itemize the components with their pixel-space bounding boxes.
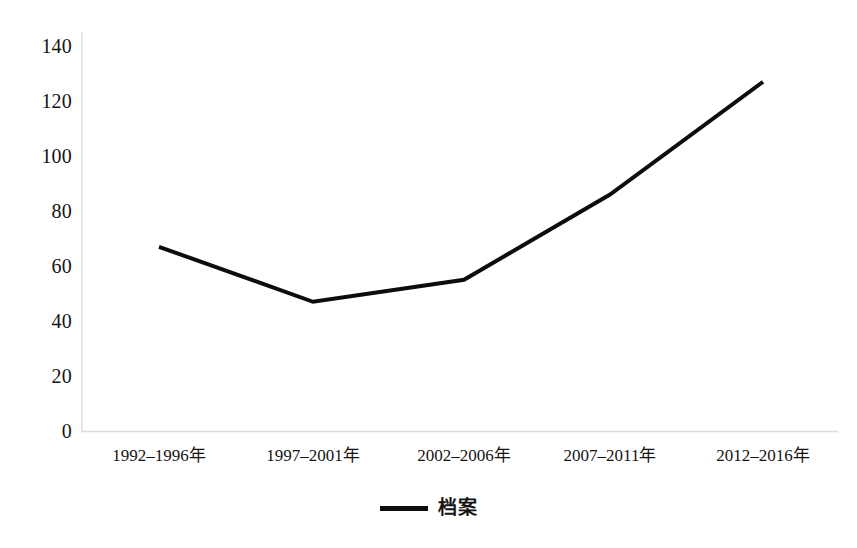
x-tick-label-1992-1996: 1992–1996年 — [82, 446, 236, 466]
x-tick-label-2012-2016: 2012–2016年 — [686, 446, 840, 466]
chart-legend: 档案 — [0, 491, 857, 525]
line-chart: 140 120 100 80 60 40 20 0 1992–1996年 199… — [0, 0, 857, 548]
x-tick-label-1997-2001: 1997–2001年 — [236, 446, 390, 466]
legend-label-dangan: 档案 — [438, 497, 478, 519]
y-tick-label-100: 100 — [16, 146, 72, 166]
x-tick-label-2002-2006: 2002–2006年 — [387, 446, 541, 466]
x-tick-label-2007-2011: 2007–2011年 — [533, 446, 687, 466]
legend-line-marker-icon — [380, 506, 428, 511]
data-series-line-dangan — [159, 82, 763, 302]
y-tick-label-140: 140 — [16, 36, 72, 56]
y-tick-label-20: 20 — [16, 366, 72, 386]
y-tick-label-0: 0 — [16, 421, 72, 441]
y-tick-label-120: 120 — [16, 91, 72, 111]
y-tick-label-80: 80 — [16, 201, 72, 221]
y-tick-label-40: 40 — [16, 311, 72, 331]
y-tick-label-60: 60 — [16, 256, 72, 276]
